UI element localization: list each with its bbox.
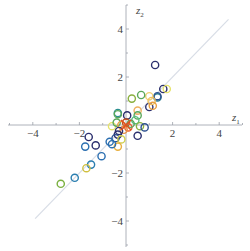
data-point [138,91,145,98]
data-point [134,132,141,139]
data-point [85,133,92,140]
y-tick-label: −4 [111,215,123,227]
y-tick-label: −2 [111,167,123,179]
x-tick-label: 2 [170,127,176,139]
y-axis-label: z2 [135,4,144,19]
y-tick-label: 4 [118,23,124,35]
data-point [92,142,99,149]
data-point [124,112,131,119]
x-tick-label: −2 [74,127,86,139]
x-tick-label: 4 [216,127,222,139]
y-tick-label: 2 [118,71,124,83]
data-point [82,143,89,150]
data-point [152,61,159,68]
data-point [98,153,105,160]
x-tick-label: −4 [27,127,39,139]
x-axis-label: z1 [231,111,240,126]
data-point [128,95,135,102]
data-point [57,180,64,187]
scatter-chart: −4−224 42−2−4 z1 z2 [0,0,250,251]
